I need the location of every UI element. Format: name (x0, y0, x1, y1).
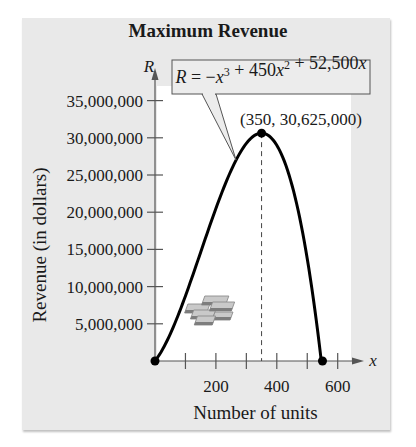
y-tick-label: 15,000,000 (67, 240, 144, 259)
y-axis-label: Revenue (in dollars) (29, 167, 51, 322)
x-axis-arrow-icon (352, 358, 364, 365)
x-tick-label: 200 (203, 377, 229, 396)
y-tick-label: 5,000,000 (75, 315, 143, 334)
y-tick-label: 20,000,000 (67, 203, 144, 222)
plot-area: Rx5,000,00010,000,00015,000,00020,000,00… (0, 0, 416, 447)
y-tick-label: 25,000,000 (67, 166, 144, 185)
y-tick-label: 10,000,000 (67, 278, 144, 297)
data-point (318, 357, 327, 366)
y-axis-symbol: R (143, 57, 155, 76)
data-point (257, 129, 266, 138)
peak-annotation: (350, 30,625,000) (240, 110, 362, 129)
y-tick-label: 35,000,000 (67, 92, 144, 111)
x-tick-label: 600 (325, 377, 351, 396)
x-axis-symbol: x (368, 351, 377, 370)
x-tick-label: 400 (264, 377, 290, 396)
data-point (151, 357, 160, 366)
x-axis-label: Number of units (0, 402, 416, 424)
y-tick-label: 30,000,000 (67, 129, 144, 148)
